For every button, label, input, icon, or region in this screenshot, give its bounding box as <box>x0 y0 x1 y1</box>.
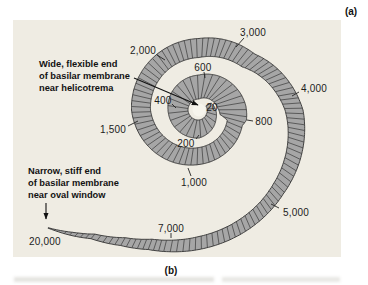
freq-label-400: 400 <box>154 95 172 106</box>
freq-label-1000: 1,000 <box>181 177 207 188</box>
cropped-caption-remnant <box>14 277 340 282</box>
helicotrema-annotation-line2: of basilar membrane <box>39 71 130 81</box>
freq-label-5000: 5,000 <box>283 207 309 218</box>
freq-label-2000: 2,000 <box>130 45 156 56</box>
oval-window-annotation-line2: of basilar membrane <box>28 178 119 188</box>
freq-label-20: 20 <box>206 102 218 113</box>
subfigure-label-a: (a) <box>345 6 357 17</box>
freq-label-7000: 7,000 <box>158 223 184 234</box>
helicotrema-annotation-line3: near helicotrema <box>39 83 114 93</box>
cochlea-diagram: 202004006008001,0001,5002,0003,0004,0005… <box>0 0 368 285</box>
freq-label-4000: 4,000 <box>301 83 327 94</box>
helicotrema-center-hole <box>193 104 206 117</box>
freq-label-1500: 1,500 <box>100 124 126 135</box>
freq-label-200: 200 <box>177 138 195 149</box>
freq-label-800: 800 <box>255 116 273 127</box>
oval-window-annotation-line3: near oval window <box>28 190 106 200</box>
freq-label-20000: 20,000 <box>29 236 61 247</box>
figure-page: 202004006008001,0001,5002,0003,0004,0005… <box>0 0 368 285</box>
helicotrema-annotation-line1: Wide, flexible end <box>39 59 118 69</box>
freq-label-600: 600 <box>194 62 212 73</box>
subfigure-label-b: (b) <box>165 265 178 276</box>
oval-window-annotation-line1: Narrow, stiff end <box>28 166 101 176</box>
freq-label-3000: 3,000 <box>240 27 266 38</box>
